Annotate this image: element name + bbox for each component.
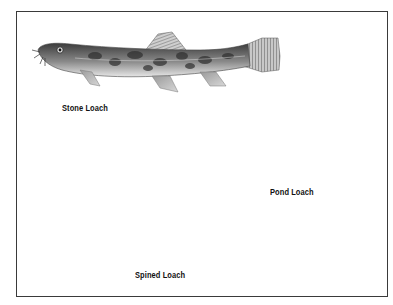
fish-illustration — [0, 0, 393, 305]
pond-loach-label: Pond Loach — [270, 187, 314, 197]
spined-loach-label: Spined Loach — [135, 270, 185, 280]
stone-loach-illustration — [32, 32, 280, 92]
stone-loach-label: Stone Loach — [62, 103, 108, 113]
